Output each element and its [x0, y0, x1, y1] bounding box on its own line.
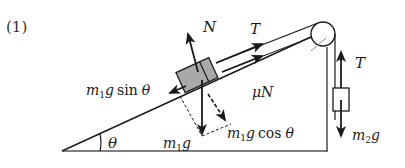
- perpendicular-component-label: m1gcosθ: [227, 125, 294, 143]
- weight-m2-label: m2g: [352, 127, 380, 145]
- tension-incline-label: T: [250, 20, 261, 38]
- friction-label: μN: [252, 84, 274, 100]
- tension-incline-arrow: [216, 44, 262, 63]
- perpendicular-component-arrow: [208, 94, 225, 120]
- pulley: [311, 22, 335, 51]
- angle-arc: [100, 134, 101, 151]
- physics-diagram: (1) θ N T μN m1gsinθ m1g m1gcosθ: [0, 0, 405, 168]
- normal-force-label: N: [202, 18, 217, 36]
- parallel-component-label: m1gsinθ: [86, 82, 151, 100]
- angle-label: θ: [108, 134, 117, 152]
- weight-m1-label: m1g: [163, 135, 191, 153]
- problem-number: (1): [6, 18, 27, 36]
- component-dash-1: [180, 96, 202, 136]
- tension-hanging-label: T: [355, 54, 366, 72]
